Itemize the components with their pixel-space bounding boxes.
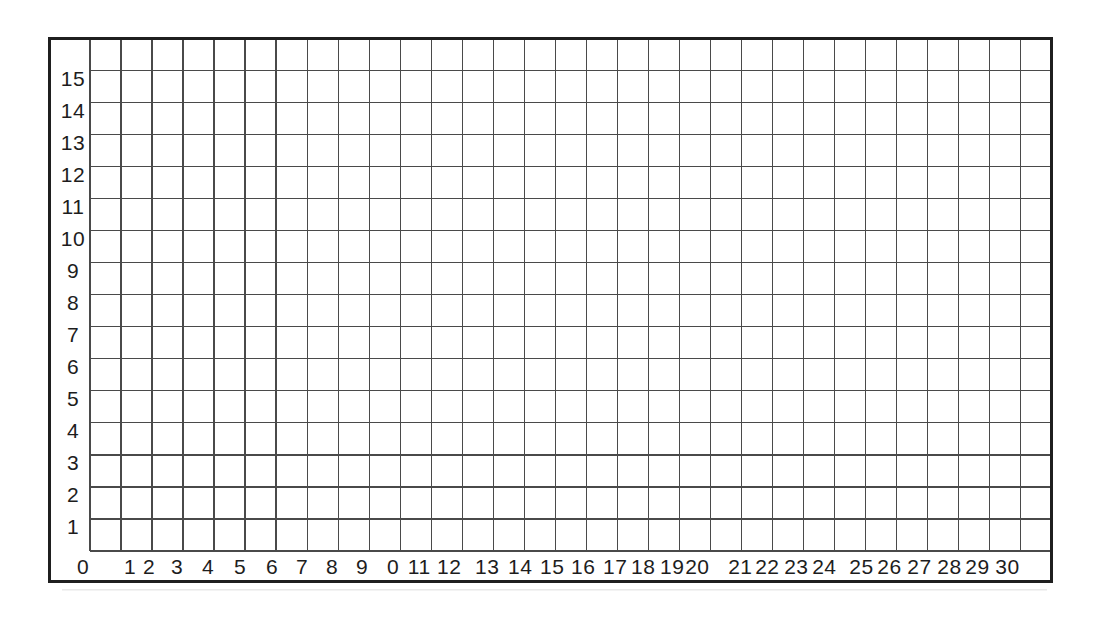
x-tick-label: 24 [812, 556, 836, 577]
y-tick-label: 10 [61, 227, 85, 248]
x-tick-label: 18 [631, 556, 655, 577]
x-tick-label: 7 [296, 556, 308, 577]
y-tick-label: 13 [61, 131, 85, 152]
y-tick-label: 3 [67, 451, 79, 472]
x-tick-label: 16 [571, 556, 595, 577]
y-tick-label: 1 [67, 515, 79, 536]
y-tick-label: 11 [62, 195, 85, 216]
x-tick-label: 30 [995, 556, 1019, 577]
y-tick-label: 9 [67, 259, 79, 280]
scan-artifact-line [62, 589, 1047, 590]
x-tick-label: 22 [755, 556, 779, 577]
x-tick-label: 19 [660, 556, 684, 577]
x-tick-label: 21 [728, 556, 752, 577]
x-tick-label: 29 [965, 556, 989, 577]
x-tick-label: 23 [784, 556, 808, 577]
horizontal-grid-lines [90, 39, 1052, 552]
x-tick-label: 17 [603, 556, 627, 577]
grid-svg [0, 0, 1100, 621]
y-tick-label: 6 [67, 355, 79, 376]
x-tick-label: 0 [387, 556, 399, 577]
x-tick-label: 11 [408, 556, 431, 577]
x-tick-label: 2 [143, 556, 155, 577]
x-tick-label: 6 [266, 556, 278, 577]
x-tick-label: 27 [907, 556, 931, 577]
x-tick-label: 3 [171, 556, 183, 577]
x-tick-label: 13 [475, 556, 499, 577]
x-tick-label: 0 [77, 556, 89, 577]
x-tick-label: 1 [124, 556, 136, 577]
x-tick-label: 4 [202, 556, 214, 577]
y-tick-label: 15 [61, 67, 85, 88]
x-tick-label: 15 [540, 556, 564, 577]
x-tick-label: 28 [937, 556, 961, 577]
y-tick-label: 12 [61, 163, 85, 184]
x-tick-label: 26 [877, 556, 901, 577]
x-tick-label: 20 [685, 556, 709, 577]
x-tick-label: 9 [356, 556, 368, 577]
frame-border [48, 39, 1053, 582]
x-tick-label: 12 [437, 556, 461, 577]
x-tick-label: 8 [326, 556, 338, 577]
y-tick-label: 8 [67, 291, 79, 312]
y-tick-label: 7 [67, 323, 79, 344]
x-tick-label: 14 [508, 556, 532, 577]
y-tick-label: 2 [67, 483, 79, 504]
y-tick-label: 4 [67, 419, 79, 440]
graph-paper-figure: 151413121110987654321 012345678901112131… [0, 0, 1100, 621]
x-tick-label: 5 [234, 556, 246, 577]
y-tick-label: 14 [61, 99, 85, 120]
x-tick-label: 25 [849, 556, 873, 577]
y-tick-label: 5 [67, 387, 79, 408]
